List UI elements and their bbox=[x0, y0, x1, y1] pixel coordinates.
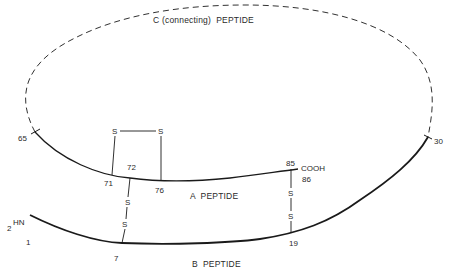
sulfur-7: S bbox=[122, 220, 127, 229]
sulfur-76: S bbox=[158, 127, 163, 136]
c-peptide-label: C (connecting) PEPTIDE bbox=[153, 15, 254, 25]
residue-30: 30 bbox=[434, 137, 443, 146]
residue-1: 1 bbox=[26, 238, 31, 247]
residue-7: 7 bbox=[114, 254, 119, 263]
sulfur-85: S bbox=[288, 189, 293, 198]
bond-s-to-s-a72b7 bbox=[126, 207, 127, 219]
sulfur-71: S bbox=[112, 127, 117, 136]
a-peptide-label: A PEPTIDE bbox=[190, 191, 238, 201]
bond-s-to-7 bbox=[122, 229, 125, 243]
proinsulin-diagram: C (connecting) PEPTIDE A PEPTIDE B PEPTI… bbox=[0, 0, 452, 271]
residue-71: 71 bbox=[104, 179, 113, 188]
residue-72: 72 bbox=[127, 163, 136, 172]
amino-terminus-label: HN bbox=[13, 218, 25, 227]
b-peptide-label: B PEPTIDE bbox=[192, 259, 241, 269]
sulfur-72: S bbox=[125, 198, 130, 207]
residue-19: 19 bbox=[289, 239, 298, 248]
carboxyl-terminus-label: COOH bbox=[301, 164, 325, 173]
bond-71-up bbox=[112, 136, 115, 175]
amino-terminus-subscript: 2 bbox=[7, 224, 12, 233]
residue-65: 65 bbox=[18, 134, 27, 143]
a-peptide-chain bbox=[35, 132, 298, 181]
residue-76: 76 bbox=[155, 186, 164, 195]
sulfur-19: S bbox=[288, 212, 293, 221]
bond-72-to-s bbox=[128, 178, 130, 197]
residue-86: 86 bbox=[302, 175, 311, 184]
residue-85: 85 bbox=[286, 159, 295, 168]
